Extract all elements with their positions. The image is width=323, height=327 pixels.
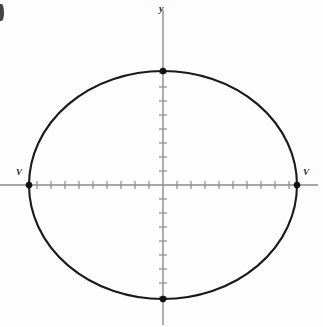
top-covertex-dot [160,68,166,74]
graph-canvas [0,0,323,327]
right-vertex-dot [294,182,300,188]
bottom-covertex-dot [160,296,166,302]
left-vertex-label: V [16,168,22,177]
y-axis-label: y [159,4,163,14]
left-vertex-dot [26,182,32,188]
ellipse-figure: y V V [0,0,323,327]
right-vertex-label: V [303,168,309,177]
